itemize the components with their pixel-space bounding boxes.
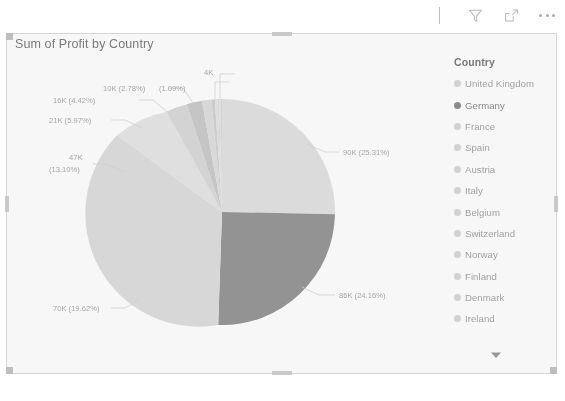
legend-swatch-icon (454, 273, 461, 280)
legend-item-label: France (465, 121, 495, 132)
pie-slice-united-kingdom[interactable] (222, 99, 335, 214)
data-label-switzerland-value: 4K (204, 68, 213, 77)
data-label-spain-percent: (13.10%) (49, 165, 80, 174)
legend-item-label: Spain (465, 142, 490, 153)
legend-swatch-icon (454, 187, 461, 194)
data-label-belgium: 10K (2.78%) (103, 84, 146, 93)
visual-header (0, 0, 565, 33)
legend-swatch-icon (454, 315, 461, 322)
legend-item-label: Germany (465, 100, 505, 111)
legend-item-label: Italy (465, 185, 483, 196)
legend-item-label: Austria (465, 164, 495, 175)
chevron-down-icon (489, 350, 503, 360)
data-label-switzerland-percent: (1.09%) (159, 84, 186, 93)
legend-item-ireland[interactable]: Ireland (451, 308, 556, 329)
data-label-france: 70K (19.62%) (53, 304, 100, 313)
legend-item-finland[interactable]: Finland (451, 266, 556, 287)
legend-item-germany[interactable]: Germany (451, 94, 556, 115)
legend-item-spain[interactable]: Spain (451, 137, 556, 158)
data-label-spain-value: 47K (69, 153, 83, 162)
legend-item-austria[interactable]: Austria (451, 159, 556, 180)
focus-mode-icon[interactable] (501, 5, 521, 25)
data-label-germany: 86K (24.16%) (339, 291, 386, 300)
data-label-united-kingdom: 90K (25.31%) (343, 148, 390, 157)
pin-icon[interactable] (429, 5, 449, 25)
data-label-austria: 21K (5.97%) (49, 116, 92, 125)
legend-swatch-icon (454, 102, 461, 109)
legend-item-label: Switzerland (465, 228, 515, 239)
pie-plot-area: 90K (25.31%) 86K (24.16%) 70K (19.62%) 4… (7, 52, 437, 374)
legend-title: Country (454, 56, 556, 68)
legend-item-label: Norway (465, 249, 498, 260)
legend-item-switzerland[interactable]: Switzerland (451, 223, 556, 244)
legend-swatch-icon (454, 251, 461, 258)
resize-handle-bottom-right[interactable] (550, 367, 557, 374)
legend-item-label: United Kingdom (465, 78, 534, 89)
leader-line-switzerland (215, 82, 229, 100)
legend-item-norway[interactable]: Norway (451, 244, 556, 265)
legend-item-belgium[interactable]: Belgium (451, 201, 556, 222)
data-label-italy: 16K (4.42%) (53, 96, 96, 105)
chart-legend: Country United Kingdom Germany France Sp… (451, 56, 556, 368)
legend-swatch-icon (454, 294, 461, 301)
filter-icon[interactable] (465, 5, 485, 25)
screenshot-root: Sum of Profit by Country (0, 0, 565, 401)
pie-chart-svg[interactable]: 90K (25.31%) 86K (24.16%) 70K (19.62%) 4… (7, 52, 437, 374)
resize-handle-top-center[interactable] (272, 32, 292, 36)
legend-item-united-kingdom[interactable]: United Kingdom (451, 73, 556, 94)
pie-slice-germany[interactable] (218, 212, 335, 325)
legend-swatch-icon (454, 123, 461, 130)
legend-item-denmark[interactable]: Denmark (451, 287, 556, 308)
legend-item-label: Finland (465, 271, 497, 282)
pie-chart-visual[interactable]: Sum of Profit by Country (6, 33, 557, 374)
pie-slices[interactable] (85, 99, 335, 327)
legend-swatch-icon (454, 80, 461, 87)
legend-swatch-icon (454, 230, 461, 237)
leader-line-switzerland-value (220, 74, 235, 99)
legend-item-label: Belgium (465, 207, 500, 218)
visual-header-actions (429, 2, 557, 28)
legend-swatch-icon (454, 166, 461, 173)
visual-title: Sum of Profit by Country (15, 37, 154, 51)
legend-item-france[interactable]: France (451, 116, 556, 137)
more-options-icon[interactable] (537, 5, 557, 25)
legend-item-label: Denmark (465, 292, 504, 303)
legend-swatch-icon (454, 209, 461, 216)
legend-swatch-icon (454, 144, 461, 151)
resize-handle-top-left[interactable] (6, 33, 13, 40)
legend-item-label: Ireland (465, 313, 495, 324)
legend-scroll-down-button[interactable] (489, 350, 503, 362)
leader-line-germany (302, 287, 335, 295)
leader-line-italy (139, 100, 167, 112)
pin-icon-glyph (439, 7, 440, 24)
more-options-glyph (539, 14, 555, 17)
legend-item-italy[interactable]: Italy (451, 180, 556, 201)
